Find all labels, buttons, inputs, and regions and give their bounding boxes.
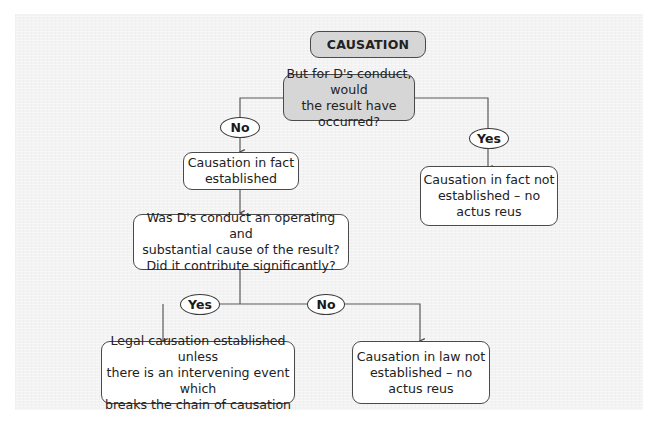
branch2-yes-label: Yes <box>188 297 212 312</box>
causation-title-box: CAUSATION <box>310 31 426 58</box>
fact-not-established-box: Causation in fact not established – no a… <box>420 166 558 226</box>
fact-established-text: Causation in fact established <box>188 155 294 187</box>
branch1-no-label: No <box>230 120 249 135</box>
operating-cause-question-text: Was D's conduct an operating and substan… <box>134 210 348 274</box>
law-not-established-box: Causation in law not established – no ac… <box>352 341 490 404</box>
legal-causation-established-text: Legal causation established unless there… <box>102 333 294 413</box>
causation-title: CAUSATION <box>327 37 409 53</box>
branch1-yes-oval: Yes <box>469 128 509 149</box>
branch1-no-oval: No <box>220 117 260 138</box>
fact-not-established-text: Causation in fact not established – no a… <box>423 172 554 220</box>
but-for-question-box: But for D's conduct, would the result ha… <box>283 74 415 121</box>
operating-cause-question-box: Was D's conduct an operating and substan… <box>133 214 349 270</box>
law-not-established-text: Causation in law not established – no ac… <box>357 349 486 397</box>
but-for-question-text: But for D's conduct, would the result ha… <box>284 66 414 130</box>
branch1-yes-label: Yes <box>477 131 501 146</box>
branch2-no-oval: No <box>307 294 345 315</box>
legal-causation-established-box: Legal causation established unless there… <box>101 341 295 404</box>
branch2-no-label: No <box>316 297 335 312</box>
branch2-yes-oval: Yes <box>180 294 220 315</box>
fact-established-box: Causation in fact established <box>183 152 299 190</box>
